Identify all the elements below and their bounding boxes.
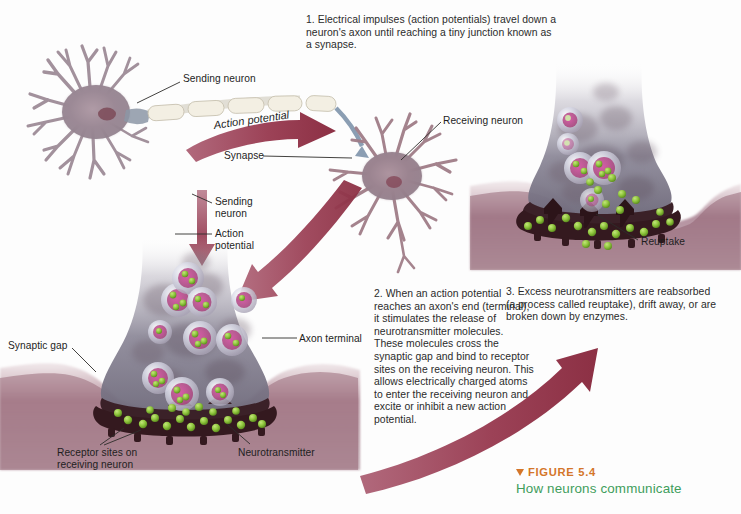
neuron-illustration: [0, 0, 741, 514]
label-reuptake: Reuptake: [641, 236, 685, 248]
label-sending-neuron-mid: Sending neuron: [215, 196, 253, 220]
right-axon-terminal: [470, 62, 741, 270]
figure-number-label: FIGURE 5.4: [528, 466, 596, 478]
label-axon-terminal: Axon terminal: [299, 333, 362, 345]
label-synapse: Synapse: [224, 150, 264, 162]
down-triangle-icon: [516, 469, 524, 476]
label-receptor-sites: Receptor sites on receiving neuron: [57, 447, 137, 471]
step-3-caption: 3. Excess neurotransmitters are reabsorb…: [506, 286, 722, 324]
zoom-arrow-to-left-terminal: [236, 180, 362, 302]
left-axon-terminal: [0, 236, 360, 470]
step-1-caption: 1. Electrical impulses (action potential…: [306, 14, 556, 52]
label-receiving-neuron: Receiving neuron: [443, 115, 523, 127]
label-sending-neuron-top: Sending neuron: [183, 73, 256, 85]
sending-neuron-cell: [28, 46, 150, 178]
figure-number-row: FIGURE 5.4: [516, 466, 682, 478]
label-synaptic-gap: Synaptic gap: [8, 340, 68, 352]
figure-title: How neurons communicate: [516, 481, 682, 496]
figure-caption-block: FIGURE 5.4 How neurons communicate: [516, 466, 682, 496]
figure-how-neurons-communicate: 1. Electrical impulses (action potential…: [0, 0, 741, 514]
label-neurotransmitter: Neurotransmitter: [238, 447, 315, 459]
label-action-potential-mid: Action potential: [215, 228, 254, 252]
